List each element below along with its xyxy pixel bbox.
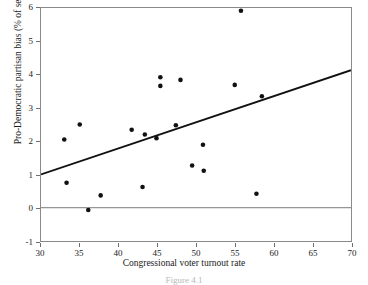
data-point	[201, 168, 206, 173]
y-tick-label: 2	[29, 137, 34, 146]
y-tick-label: 6	[29, 3, 34, 12]
data-point	[260, 94, 265, 99]
x-axis-title: Congressional voter turnout rate	[0, 258, 368, 268]
figure-caption: Figure 4.1	[0, 275, 368, 285]
data-point	[143, 132, 148, 137]
data-point	[158, 75, 163, 80]
y-tick-label: 3	[29, 103, 34, 112]
data-point	[62, 137, 67, 142]
y-axis-tick-labels: -10123456	[0, 0, 40, 249]
data-point	[174, 123, 179, 128]
data-point	[154, 136, 159, 141]
data-point	[77, 122, 82, 127]
data-point	[190, 163, 195, 168]
x-tick-label: 45	[153, 249, 162, 258]
x-tick-mark	[235, 243, 236, 247]
data-point	[129, 128, 134, 133]
y-tick-label: 1	[29, 170, 34, 179]
x-tick-label: 60	[270, 249, 279, 258]
x-tick-mark	[40, 243, 41, 247]
data-point	[232, 83, 237, 88]
data-point	[158, 84, 163, 89]
x-tick-mark	[118, 243, 119, 247]
x-tick-label: 70	[348, 249, 357, 258]
data-point	[140, 185, 145, 190]
trend-line	[41, 70, 351, 174]
y-tick-label: 0	[29, 204, 34, 213]
y-tick-label: 5	[29, 36, 34, 45]
plot-canvas	[41, 8, 351, 241]
x-tick-label: 30	[36, 249, 45, 258]
regression-line	[41, 70, 351, 174]
x-tick-mark	[196, 243, 197, 247]
data-point	[86, 208, 91, 213]
y-tick-label: 4	[29, 70, 34, 79]
x-tick-mark	[157, 243, 158, 247]
x-tick-label: 35	[75, 249, 84, 258]
x-tick-mark	[79, 243, 80, 247]
x-tick-mark	[274, 243, 275, 247]
data-point	[64, 180, 69, 185]
x-tick-label: 65	[309, 249, 318, 258]
x-tick-label: 40	[114, 249, 123, 258]
x-tick-mark	[352, 243, 353, 247]
data-point	[178, 78, 183, 83]
x-tick-label: 55	[231, 249, 240, 258]
data-point	[201, 143, 206, 148]
data-point	[98, 193, 103, 198]
data-point	[239, 8, 244, 13]
plot-area	[40, 7, 352, 242]
x-tick-mark	[313, 243, 314, 247]
data-point	[254, 191, 259, 196]
x-tick-label: 50	[192, 249, 201, 258]
